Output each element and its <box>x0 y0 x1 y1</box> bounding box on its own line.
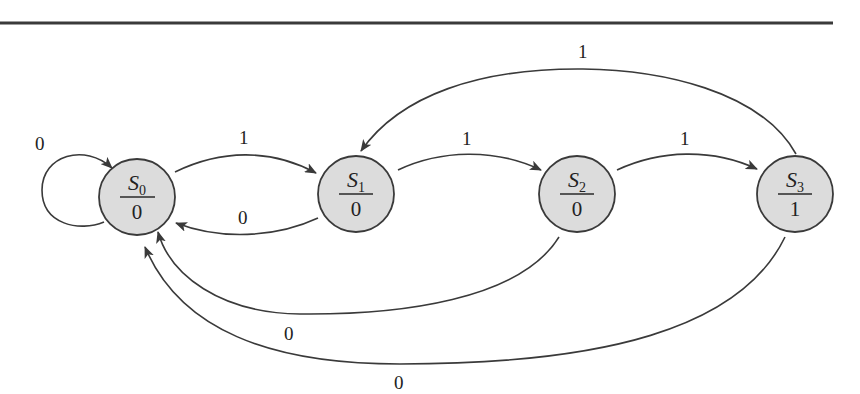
state-s1: S1 0 <box>318 156 394 232</box>
edge-s1-to-s2 <box>398 154 541 170</box>
edge-label-s2-s3: 1 <box>680 128 690 149</box>
state-s0-output: 0 <box>132 200 143 224</box>
edge-label-s2-s0: 0 <box>284 323 294 344</box>
edge-s3-to-s1 <box>361 69 796 154</box>
state-s2-output: 0 <box>572 197 583 221</box>
edge-label-s3-s0: 0 <box>394 372 404 393</box>
edge-label-s1-s2: 1 <box>462 128 472 149</box>
edge-s2-to-s3 <box>617 154 757 170</box>
edge-s2-to-s0 <box>158 232 559 314</box>
state-s0: S0 0 <box>99 159 175 235</box>
state-diagram: 0 1 0 1 1 1 0 0 S0 0 S1 0 S2 0 S3 <box>0 0 860 394</box>
state-s1-output: 0 <box>351 197 362 221</box>
state-s3-output: 1 <box>790 197 801 221</box>
edge-label-s3-s1: 1 <box>578 41 588 62</box>
state-s3: S3 1 <box>757 156 833 232</box>
edge-label-s1-s0: 0 <box>238 207 248 228</box>
edge-label-s0-s1: 1 <box>239 127 249 148</box>
state-s2: S2 0 <box>539 156 615 232</box>
edge-s3-to-s0 <box>145 237 785 364</box>
edge-label-s0-self: 0 <box>35 133 45 154</box>
edge-s0-to-s1 <box>175 155 316 173</box>
